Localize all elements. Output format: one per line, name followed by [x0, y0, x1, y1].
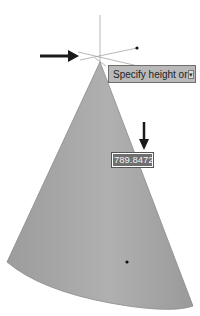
prompt-text: Specify height or [109, 69, 188, 80]
options-dropdown-button[interactable]: ▾ [188, 70, 194, 79]
grip-point[interactable] [135, 46, 138, 49]
pointer-arrow-down-icon [139, 122, 149, 150]
pointer-arrow-right-icon [40, 50, 79, 62]
height-value[interactable]: 789.8472 [113, 154, 152, 166]
cone-solid[interactable] [7, 62, 193, 309]
base-center-point [125, 260, 128, 263]
crosshair-cursor [78, 15, 138, 66]
height-input-field[interactable]: 789.8472 [111, 152, 154, 168]
command-prompt-tooltip: Specify height or ▾ [108, 65, 196, 83]
drawing-viewport[interactable] [0, 0, 200, 316]
